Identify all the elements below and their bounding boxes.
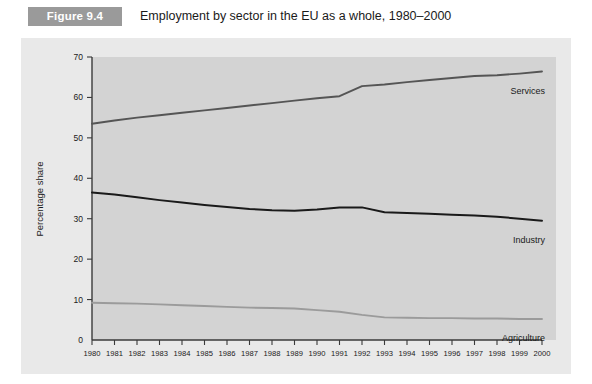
- y-tick-label: 60: [74, 92, 84, 102]
- plot-background: [92, 57, 556, 340]
- x-tick-label: 1985: [196, 349, 213, 358]
- y-tick-label: 0: [78, 335, 83, 345]
- x-tick-label: 1986: [219, 349, 236, 358]
- x-tick-label: 1999: [511, 349, 528, 358]
- y-axis: 010203040506070: [74, 52, 92, 345]
- x-tick-label: 1993: [376, 349, 393, 358]
- y-tick-label: 50: [74, 133, 84, 143]
- x-tick-label: 1988: [264, 349, 281, 358]
- x-tick-label: 1987: [241, 349, 258, 358]
- x-tick-label: 1996: [444, 349, 461, 358]
- employment-by-sector-line-chart: 010203040506070 198019811982198319841985…: [0, 0, 592, 384]
- x-axis: 1980198119821983198419851986198719881989…: [84, 340, 551, 358]
- series-label-industry: Industry: [513, 235, 546, 245]
- x-tick-label: 1981: [106, 349, 123, 358]
- series-label-agriculture: Agriculture: [502, 333, 545, 343]
- x-tick-label: 1980: [84, 349, 101, 358]
- x-tick-label: 1998: [489, 349, 506, 358]
- x-tick-label: 1983: [151, 349, 168, 358]
- series-label-services: Services: [510, 86, 545, 96]
- x-tick-label: 1989: [286, 349, 303, 358]
- y-axis-title: Percentage share: [34, 162, 45, 237]
- y-tick-label: 10: [74, 295, 84, 305]
- x-tick-label: 1984: [174, 349, 191, 358]
- y-tick-label: 40: [74, 173, 84, 183]
- chart-canvas: 010203040506070 198019811982198319841985…: [0, 0, 592, 384]
- x-tick-label: 1997: [466, 349, 483, 358]
- y-tick-label: 20: [74, 254, 84, 264]
- x-tick-label: 1991: [331, 349, 348, 358]
- x-tick-label: 1995: [421, 349, 438, 358]
- y-tick-label: 70: [74, 52, 84, 62]
- x-tick-label: 1994: [399, 349, 416, 358]
- x-tick-label: 1982: [129, 349, 146, 358]
- x-tick-label: 1992: [354, 349, 371, 358]
- x-tick-label: 1990: [309, 349, 326, 358]
- y-tick-label: 30: [74, 214, 84, 224]
- x-tick-label: 2000: [534, 349, 551, 358]
